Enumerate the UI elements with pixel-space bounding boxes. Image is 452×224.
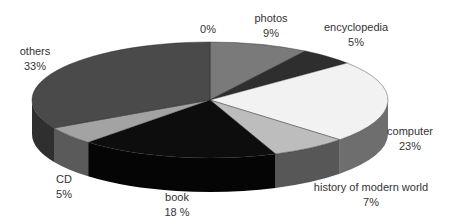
label-history: history of modern world7% [314, 180, 428, 210]
label-photos: photos9% [254, 11, 287, 41]
label-computer: computer23% [387, 124, 433, 154]
label-book: book18 % [164, 190, 189, 220]
label-cd: CD5% [56, 172, 72, 202]
label-encyclopedia: encyclopedia5% [324, 20, 388, 50]
label-others: others33% [20, 44, 51, 74]
label-zero: 0% [200, 22, 216, 37]
